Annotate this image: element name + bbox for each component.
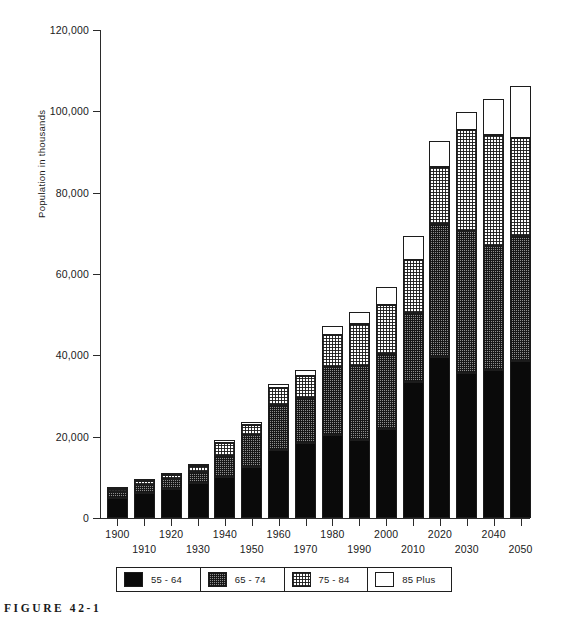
bar-group — [107, 488, 128, 518]
figure-root: Population in thousands 020,00040,00060,… — [0, 0, 568, 623]
legend-swatch — [375, 572, 394, 587]
y-tick-label: 80,000 — [56, 187, 89, 199]
legend-label: 65 - 74 — [235, 574, 266, 585]
bar-segment — [268, 384, 289, 388]
bar-segment — [134, 485, 155, 493]
bar-group — [322, 326, 343, 518]
bar-segment — [188, 464, 209, 466]
x-tick-label: 1990 — [347, 543, 371, 555]
x-tick-mark — [359, 519, 360, 526]
bar-group — [214, 440, 235, 518]
bar-segment — [483, 99, 504, 134]
bar-segment — [403, 260, 424, 313]
x-tick-mark — [521, 519, 522, 526]
bar-group — [134, 480, 155, 518]
x-tick-mark — [279, 519, 280, 526]
bar-segment — [349, 324, 370, 365]
x-tick-mark — [494, 519, 495, 526]
bar-segment — [322, 367, 343, 436]
y-tick-mark — [93, 274, 100, 275]
bar-segment — [161, 473, 182, 475]
bar-segment — [403, 236, 424, 260]
x-tick-mark — [144, 519, 145, 526]
bar-group — [161, 473, 182, 518]
bar-group — [188, 464, 209, 518]
bar-segment — [483, 370, 504, 518]
y-tick-mark — [93, 518, 100, 519]
bar-segment — [134, 493, 155, 518]
bar-segment — [107, 498, 128, 518]
legend-item: 75 - 84 — [285, 568, 369, 591]
bar-group — [295, 370, 316, 518]
bar-segment — [429, 357, 450, 518]
bar-segment — [295, 376, 316, 398]
bar-segment — [295, 370, 316, 376]
legend-item: 65 - 74 — [201, 568, 285, 591]
bar-segment — [134, 481, 155, 485]
bar-segment — [376, 287, 397, 304]
x-tick-label: 1940 — [213, 528, 237, 540]
x-tick-label: 1960 — [267, 528, 291, 540]
x-tick-label: 1910 — [132, 543, 156, 555]
bar-segment — [429, 224, 450, 357]
chart-legend: 55 - 6465 - 7475 - 8485 Plus — [116, 567, 452, 592]
x-tick-mark — [117, 519, 118, 526]
y-axis-title: Population in thousands — [36, 78, 47, 218]
bar-group — [349, 312, 370, 518]
y-tick-label: 40,000 — [56, 349, 89, 361]
bar-segment — [376, 429, 397, 518]
x-tick-mark — [467, 519, 468, 526]
bar-segment — [295, 398, 316, 443]
bar-segment — [214, 477, 235, 518]
bar-segment — [188, 472, 209, 483]
bar-group — [376, 287, 397, 518]
bar-segment — [456, 231, 477, 374]
bar-group — [456, 112, 477, 518]
x-tick-label: 2050 — [508, 543, 532, 555]
bar-segment — [483, 246, 504, 370]
bar-group — [268, 384, 289, 518]
y-tick-label: 60,000 — [56, 268, 89, 280]
legend-label: 85 Plus — [402, 574, 435, 585]
bar-segment — [214, 456, 235, 477]
x-tick-mark — [225, 519, 226, 526]
x-tick-label: 2020 — [428, 528, 452, 540]
bar-segment — [456, 130, 477, 230]
bar-segment — [322, 335, 343, 366]
y-tick-label: 0 — [83, 512, 89, 524]
bar-group — [429, 141, 450, 518]
legend-swatch — [208, 572, 227, 587]
bar-segment — [376, 354, 397, 429]
bar-segment — [188, 483, 209, 518]
bar-segment — [188, 466, 209, 472]
plot-area: 020,00040,00060,00080,000100,000120,000 … — [100, 30, 530, 518]
bar-segment — [349, 312, 370, 325]
bar-segment — [510, 86, 531, 138]
x-tick-label: 1950 — [240, 543, 264, 555]
x-tick-mark — [252, 519, 253, 526]
x-tick-label: 1930 — [186, 543, 210, 555]
bar-segment — [161, 479, 182, 489]
bar-segment — [134, 479, 155, 481]
bar-segment — [107, 492, 128, 499]
y-tick-label: 100,000 — [50, 105, 89, 117]
x-tick-mark — [306, 519, 307, 526]
x-axis-ticks — [100, 519, 530, 527]
legend-swatch — [292, 572, 311, 587]
x-tick-mark — [413, 519, 414, 526]
y-tick-mark — [93, 355, 100, 356]
bar-segment — [161, 475, 182, 479]
x-tick-mark — [171, 519, 172, 526]
legend-label: 55 - 64 — [151, 574, 182, 585]
x-tick-label: 2030 — [455, 543, 479, 555]
bar-group — [403, 236, 424, 518]
figure-caption: FIGURE 42-1 — [4, 602, 101, 614]
x-tick-mark — [440, 519, 441, 526]
bar-segment — [349, 440, 370, 518]
y-tick-mark — [93, 437, 100, 438]
x-tick-label: 2010 — [401, 543, 425, 555]
x-tick-mark — [332, 519, 333, 526]
bar-segment — [107, 487, 128, 489]
bar-segment — [456, 373, 477, 518]
bar-segment — [107, 489, 128, 492]
